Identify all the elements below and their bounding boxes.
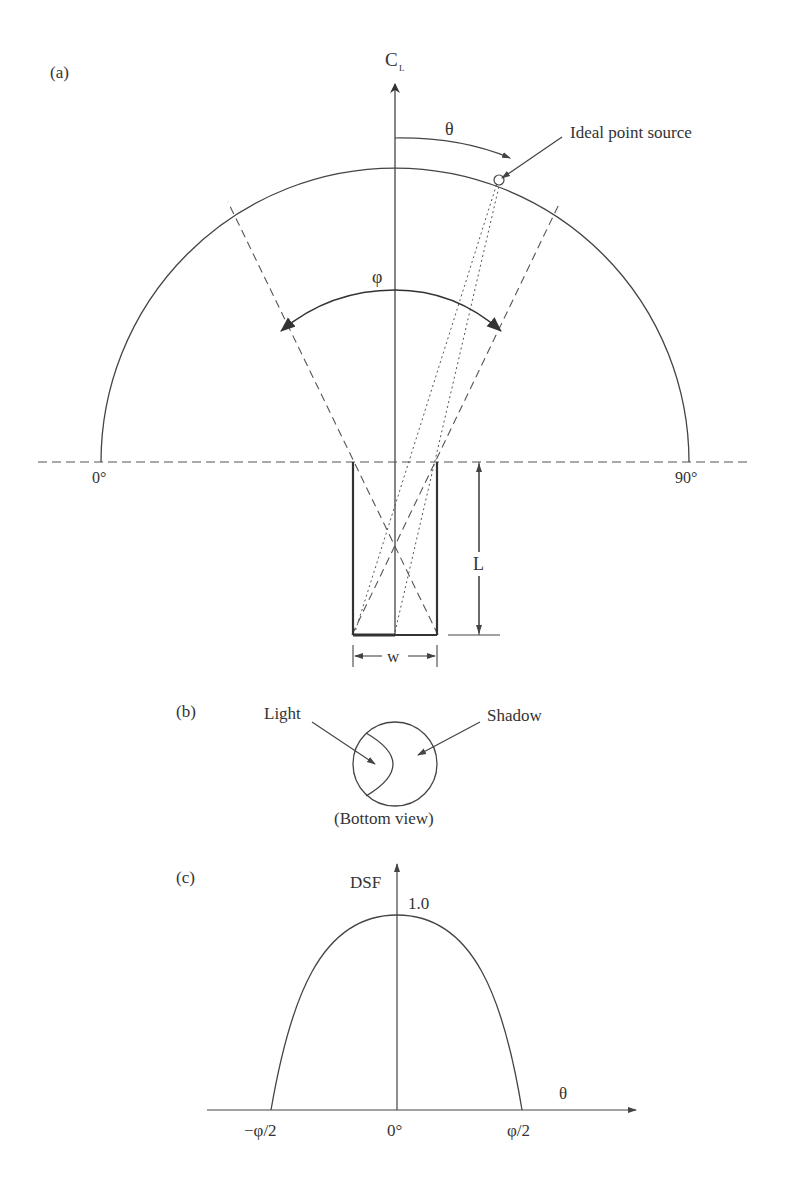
- panel-a-label: (a): [50, 63, 69, 82]
- shadow-label: Shadow: [487, 706, 543, 725]
- tick-neg-half-phi: −φ/2: [244, 1121, 277, 1140]
- panel-b-label: (b): [176, 702, 196, 721]
- centerline-label: C: [385, 49, 398, 70]
- phi-arc-right-arrow: [395, 290, 501, 331]
- phi-arc-left-arrow: [281, 290, 395, 331]
- light-label: Light: [264, 704, 301, 723]
- theta-axis-label: θ: [559, 1084, 567, 1103]
- theta-arc-arrow: [395, 138, 510, 158]
- tick-zero: 0°: [387, 1121, 402, 1140]
- length-label: L: [473, 554, 484, 574]
- cone-right-dashed-line: [352, 202, 560, 635]
- bottom-view-caption: (Bottom view): [334, 809, 434, 828]
- diagram-canvas: (a) C L 0° 90° Ideal point source θ φ: [0, 0, 785, 1180]
- cone-left-dashed-line: [228, 202, 438, 635]
- light-leader-arrow: [312, 722, 375, 764]
- point-source-icon: [494, 175, 504, 185]
- light-shadow-boundary: [366, 733, 393, 796]
- phi-label: φ: [372, 267, 382, 287]
- panel-a: (a) C L 0° 90° Ideal point source θ φ: [38, 49, 752, 667]
- panel-c: (c) DSF 1.0 θ −φ/2 0° φ/2: [176, 864, 636, 1140]
- dsf-axis-label: DSF: [350, 873, 381, 892]
- zero-degree-label: 0°: [92, 469, 106, 486]
- source-leader-arrow: [502, 137, 562, 178]
- width-label: w: [387, 647, 400, 666]
- peak-value-label: 1.0: [408, 894, 429, 913]
- point-source-label: Ideal point source: [570, 123, 692, 142]
- centerline-subscript: L: [399, 63, 405, 73]
- tick-pos-half-phi: φ/2: [507, 1121, 530, 1140]
- panel-c-label: (c): [176, 868, 195, 887]
- theta-label: θ: [445, 119, 454, 139]
- shadow-leader-arrow: [418, 722, 480, 755]
- tube-bottom-view-circle: [353, 722, 437, 806]
- ninety-degree-label: 90°: [675, 469, 697, 486]
- panel-b: (b) Light Shadow (Bottom view): [176, 702, 543, 828]
